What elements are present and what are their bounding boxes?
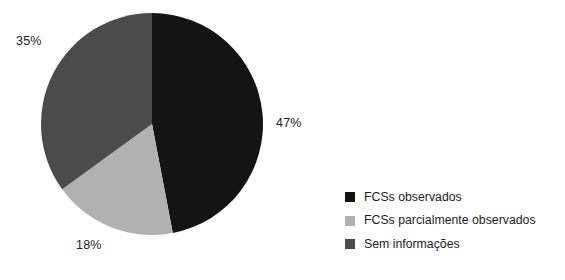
legend-item-fcss-observados[interactable]: FCSs observados — [345, 190, 536, 204]
legend-swatch-icon — [345, 216, 355, 226]
pie-data-label-18: 18% — [76, 239, 102, 252]
pie-slices — [41, 13, 263, 235]
chart-legend: FCSs observados FCSs parcialmente observ… — [345, 190, 536, 251]
legend-item-sem-informacoes[interactable]: Sem informações — [345, 237, 536, 251]
legend-swatch-icon — [345, 239, 355, 249]
pie-chart-figure: 47% 35% 18% FCSs observados FCSs parcial… — [0, 0, 565, 280]
legend-item-label: Sem informações — [364, 238, 460, 250]
legend-item-label: FCSs observados — [364, 191, 462, 203]
legend-item-fcss-parcialmente-observados[interactable]: FCSs parcialmente observados — [345, 214, 536, 228]
pie-data-label-47: 47% — [276, 117, 302, 130]
legend-item-label: FCSs parcialmente observados — [364, 214, 536, 226]
legend-swatch-icon — [345, 192, 355, 202]
pie-data-label-35: 35% — [16, 35, 42, 48]
pie-slice-fcss-observados[interactable] — [152, 13, 263, 233]
pie-chart-svg — [41, 13, 263, 235]
pie-chart-plot-area — [41, 13, 263, 235]
